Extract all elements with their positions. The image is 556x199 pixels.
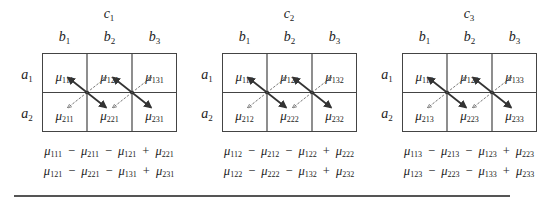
- dashed-arrow-ne-icon: [447, 78, 466, 93]
- dashed-arrow-ne-icon: [267, 78, 286, 93]
- dashed-arrow-sw-icon: [68, 93, 87, 108]
- dashed-arrow-sw-icon: [293, 93, 312, 108]
- solid-arrow-nw-icon: [293, 78, 312, 93]
- dashed-arrow-ne-icon: [312, 78, 331, 93]
- solid-arrow-se-icon: [132, 93, 151, 108]
- solid-arrow-nw-icon: [113, 78, 132, 93]
- dashed-arrow-sw-icon: [113, 93, 132, 108]
- dashed-arrow-sw-icon: [473, 93, 492, 108]
- solid-arrow-se-icon: [447, 93, 466, 108]
- solid-arrow-nw-icon: [248, 78, 267, 93]
- dashed-arrow-sw-icon: [428, 93, 447, 108]
- solid-arrow-se-icon: [87, 93, 106, 108]
- dashed-arrow-ne-icon: [87, 78, 106, 93]
- solid-arrow-se-icon: [492, 93, 511, 108]
- solid-arrow-se-icon: [312, 93, 331, 108]
- dashed-arrow-ne-icon: [492, 78, 511, 93]
- solid-arrow-nw-icon: [428, 78, 447, 93]
- dashed-arrow-sw-icon: [248, 93, 267, 108]
- solid-arrow-nw-icon: [68, 78, 87, 93]
- arrow-overlay: [0, 0, 556, 199]
- solid-arrow-se-icon: [267, 93, 286, 108]
- bottom-rule: [14, 195, 510, 197]
- solid-arrow-nw-icon: [473, 78, 492, 93]
- dashed-arrow-ne-icon: [132, 78, 151, 93]
